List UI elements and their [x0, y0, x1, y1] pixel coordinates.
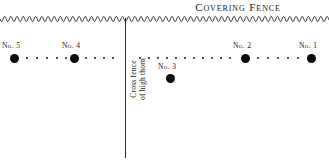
trail-dot — [157, 57, 159, 59]
trail-dot — [229, 57, 231, 59]
trail-dot — [94, 57, 96, 59]
trail-dot — [277, 57, 279, 59]
trail-dot — [193, 57, 195, 59]
marker-label-no-2: No. 2 — [233, 41, 251, 50]
marker-dot-no-5 — [10, 54, 19, 63]
trail-dot — [112, 57, 114, 59]
marker-label-no-1: No. 1 — [299, 41, 317, 50]
marker-label-no-5: No. 5 — [2, 41, 20, 50]
covering-fence-wavy-line — [0, 14, 329, 24]
trail-dot — [166, 57, 168, 59]
trail-dot — [297, 57, 299, 59]
cross-fence-label-line-1: Cross fence — [129, 48, 138, 110]
trail-dot — [56, 57, 58, 59]
trail-dot — [36, 57, 38, 59]
marker-dot-no-3 — [166, 74, 175, 83]
trail-dot — [65, 57, 67, 59]
trail-dot — [46, 57, 48, 59]
trail-dot — [202, 57, 204, 59]
trail-dot — [257, 57, 259, 59]
trail-dot — [267, 57, 269, 59]
trail-dot — [148, 57, 150, 59]
marker-label-no-3: No. 3 — [158, 62, 176, 71]
marker-dot-no-1 — [307, 54, 316, 63]
trail-dot — [139, 57, 141, 59]
fence-diagram-canvas: Covering Fence Cross fence of high thorn… — [0, 0, 329, 164]
trail-dot — [85, 57, 87, 59]
trail-dot — [211, 57, 213, 59]
marker-label-no-4: No. 4 — [62, 41, 80, 50]
trail-dot — [26, 57, 28, 59]
trail-dot — [220, 57, 222, 59]
trail-dot — [184, 57, 186, 59]
marker-dot-no-4 — [70, 54, 79, 63]
page-title: Covering Fence — [178, 1, 298, 13]
trail-dot — [103, 57, 105, 59]
trail-dot — [175, 57, 177, 59]
marker-dot-no-2 — [241, 54, 250, 63]
cross-fence-vertical-line — [125, 18, 126, 158]
trail-dot — [287, 57, 289, 59]
